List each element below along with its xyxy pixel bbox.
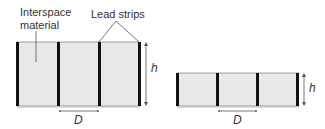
spacing-arrow-short xyxy=(218,110,257,112)
lead-strips-label: Lead strips xyxy=(91,8,145,20)
lead-strip xyxy=(98,42,101,106)
height-arrow-short xyxy=(302,73,306,106)
height-label-tall: h xyxy=(151,61,158,75)
spacing-label-short: D xyxy=(233,113,242,127)
interspace-label-line1: Interspace xyxy=(20,6,71,18)
lead-strip xyxy=(256,73,259,106)
lead-strip xyxy=(57,42,60,106)
lead-strip xyxy=(138,42,141,106)
interspace-label-line2: material xyxy=(20,19,59,31)
spacing-label-tall: D xyxy=(74,113,83,127)
tall-grid xyxy=(16,42,141,107)
height-label-short: h xyxy=(309,81,316,95)
height-arrow-tall xyxy=(144,42,148,106)
lead-strip xyxy=(16,42,19,106)
tall-grid-interspace xyxy=(17,42,139,106)
lead-strip xyxy=(296,73,299,106)
lead-strip-pointer xyxy=(116,21,139,42)
short-grid-interspace xyxy=(177,73,298,106)
lead-strip xyxy=(216,73,219,106)
short-grid xyxy=(176,73,299,107)
spacing-arrow-tall xyxy=(59,110,99,112)
lead-strip-pointer xyxy=(99,21,116,42)
lead-strip xyxy=(176,73,179,106)
